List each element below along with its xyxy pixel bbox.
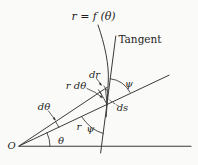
psi-upper-label: ψ: [125, 78, 133, 89]
tangent-label: Tangent: [118, 33, 162, 45]
dtheta-label: dθ: [38, 101, 50, 112]
curve-equation-label: r = f (θ): [71, 10, 115, 23]
ds-label: ds: [117, 102, 129, 113]
diagram-canvas: r = f (θ) Tangent dr r dθ dθ ds r ψ ψ θ …: [0, 0, 198, 165]
r-dtheta-label: r dθ: [66, 80, 86, 91]
origin-label: O: [7, 140, 15, 151]
paper-background: [0, 0, 198, 165]
psi-lower-label: ψ: [87, 123, 95, 134]
theta-label: θ: [58, 135, 64, 146]
polar-tangent-angle-figure: r = f (θ) Tangent dr r dθ dθ ds r ψ ψ θ …: [0, 0, 198, 165]
dr-label: dr: [89, 69, 101, 80]
